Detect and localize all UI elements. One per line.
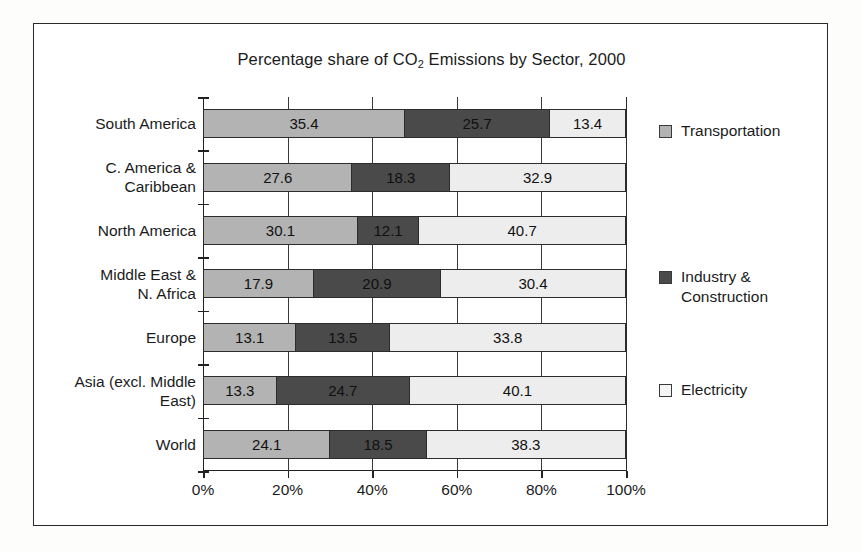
chart-legend: TransportationIndustry & ConstructionEle… <box>659 97 829 471</box>
bar-row: 13.324.740.1 <box>203 364 626 417</box>
stacked-bar[interactable]: 24.118.538.3 <box>203 430 626 459</box>
bar-segment-industry[interactable]: 18.3 <box>351 164 449 191</box>
x-tick-80 <box>541 471 543 478</box>
x-tick-label-100: 100% <box>591 481 661 499</box>
bar-row: 24.118.538.3 <box>203 418 626 471</box>
x-tick-0 <box>203 471 205 478</box>
bar-segment-electricity[interactable]: 32.9 <box>449 164 625 191</box>
y-axis-label-5: Asia (excl. MiddleEast) <box>38 372 196 410</box>
bar-segment-industry[interactable]: 25.7 <box>404 110 549 137</box>
bar-segment-transportation[interactable]: 17.9 <box>204 270 313 297</box>
legend-swatch-industry-icon <box>659 271 672 284</box>
chart-title-suffix: Emissions by Sector, 2000 <box>424 50 626 68</box>
bar-segment-transportation[interactable]: 27.6 <box>204 164 351 191</box>
bar-row: 30.112.140.7 <box>203 204 626 257</box>
bar-segment-industry[interactable]: 12.1 <box>357 217 418 244</box>
bar-segment-industry[interactable]: 18.5 <box>329 431 425 458</box>
bar-segment-electricity[interactable]: 33.8 <box>389 324 625 351</box>
legend-label-transportation: Transportation <box>681 121 780 141</box>
gridline-100 <box>626 97 627 471</box>
x-tick-40 <box>372 471 374 478</box>
stacked-bar[interactable]: 13.324.740.1 <box>203 376 626 405</box>
x-tick-20 <box>288 471 290 478</box>
legend-item-electricity[interactable]: Electricity <box>659 380 747 400</box>
bar-segment-transportation[interactable]: 30.1 <box>204 217 357 244</box>
y-axis-labels: South AmericaC. America &CaribbeanNorth … <box>38 97 196 471</box>
chart-title-subscript: 2 <box>418 58 424 70</box>
stacked-bar[interactable]: 27.618.332.9 <box>203 163 626 192</box>
bar-segment-industry[interactable]: 20.9 <box>313 270 440 297</box>
x-tick-60 <box>457 471 459 478</box>
bar-segment-electricity[interactable]: 40.1 <box>409 377 625 404</box>
bar-segment-industry[interactable]: 24.7 <box>276 377 409 404</box>
bar-segment-electricity[interactable]: 40.7 <box>418 217 625 244</box>
y-axis-label-1: C. America &Caribbean <box>38 158 196 196</box>
y-axis-label-3: Middle East &N. Africa <box>38 265 196 303</box>
bar-segment-transportation[interactable]: 35.4 <box>204 110 404 137</box>
legend-label-industry: Industry & Construction <box>681 267 816 307</box>
x-tick-label-80: 80% <box>506 481 576 499</box>
bar-row: 35.425.713.4 <box>203 97 626 150</box>
x-tick-label-20: 20% <box>253 481 323 499</box>
bar-segment-industry[interactable]: 13.5 <box>295 324 389 351</box>
stacked-bar[interactable]: 30.112.140.7 <box>203 216 626 245</box>
bar-segment-electricity[interactable]: 30.4 <box>440 270 625 297</box>
stacked-bar[interactable]: 35.425.713.4 <box>203 109 626 138</box>
figure-frame: Percentage share of CO2 Emissions by Sec… <box>33 23 828 526</box>
bar-segment-transportation[interactable]: 13.3 <box>204 377 276 404</box>
bar-rows: 35.425.713.427.618.332.930.112.140.717.9… <box>203 97 626 471</box>
plot-area: South AmericaC. America &CaribbeanNorth … <box>203 97 626 471</box>
y-axis-label-2: North America <box>38 221 196 240</box>
y-axis-label-0: South America <box>38 114 196 133</box>
legend-label-electricity: Electricity <box>681 380 747 400</box>
y-axis-label-4: Europe <box>38 328 196 347</box>
bar-row: 13.113.533.8 <box>203 311 626 364</box>
stacked-bar[interactable]: 17.920.930.4 <box>203 269 626 298</box>
stacked-bar[interactable]: 13.113.533.8 <box>203 323 626 352</box>
y-axis-label-6: World <box>38 435 196 454</box>
bar-segment-electricity[interactable]: 38.3 <box>426 431 625 458</box>
legend-item-industry[interactable]: Industry & Construction <box>659 267 816 307</box>
bar-segment-transportation[interactable]: 13.1 <box>204 324 295 351</box>
bar-row: 27.618.332.9 <box>203 150 626 203</box>
chart-page: Percentage share of CO2 Emissions by Sec… <box>0 0 861 552</box>
chart-title-prefix: Percentage share of CO <box>238 50 418 68</box>
bar-row: 17.920.930.4 <box>203 257 626 310</box>
x-tick-100 <box>626 471 628 478</box>
x-tick-label-0: 0% <box>168 481 238 499</box>
chart-title: Percentage share of CO2 Emissions by Sec… <box>34 50 829 69</box>
legend-swatch-transportation-icon <box>659 125 672 138</box>
bar-segment-transportation[interactable]: 24.1 <box>204 431 329 458</box>
legend-item-transportation[interactable]: Transportation <box>659 121 780 141</box>
x-tick-label-40: 40% <box>337 481 407 499</box>
legend-swatch-electricity-icon <box>659 384 672 397</box>
bar-segment-electricity[interactable]: 13.4 <box>549 110 625 137</box>
x-tick-label-60: 60% <box>422 481 492 499</box>
